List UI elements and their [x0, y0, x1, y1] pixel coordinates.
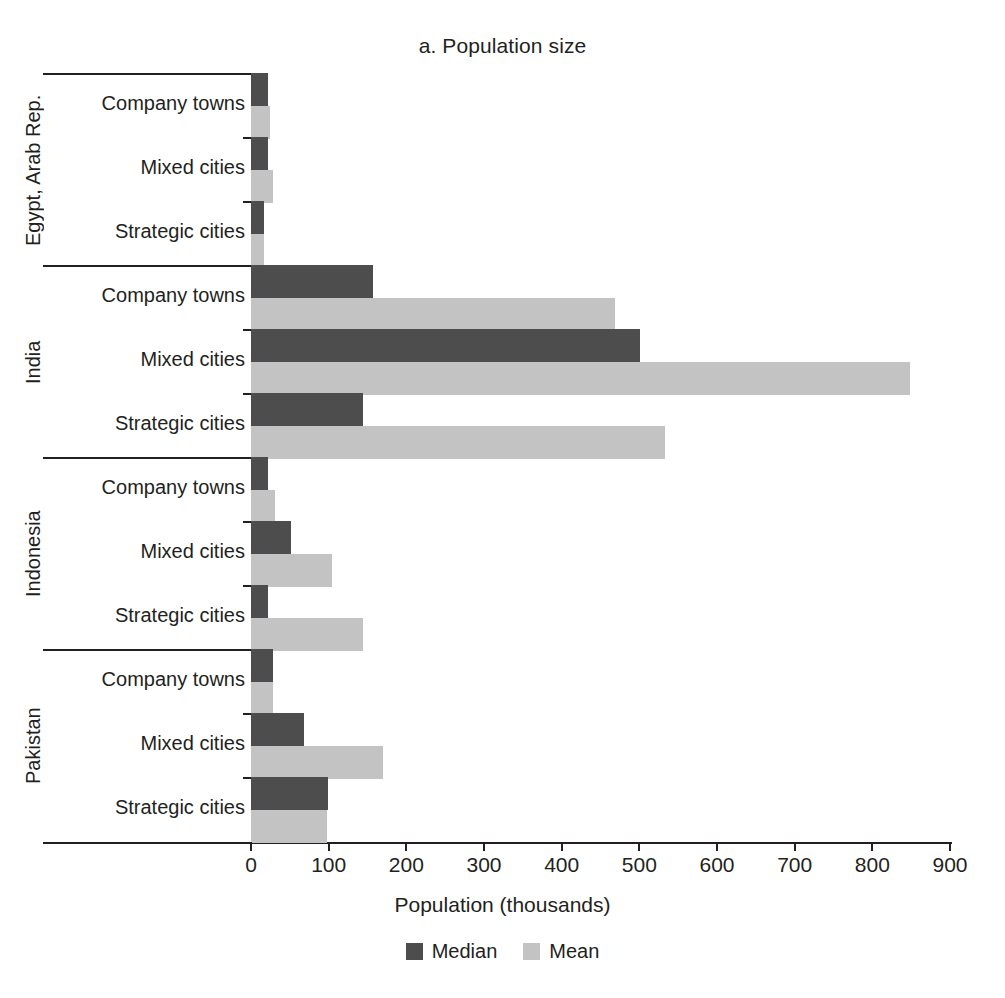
category-label: Strategic cities — [60, 220, 245, 243]
group-separator — [43, 265, 252, 267]
x-tick — [483, 842, 485, 851]
bar-mean — [251, 234, 264, 267]
x-axis-label: Population (thousands) — [0, 893, 1005, 917]
x-tick — [638, 842, 640, 851]
x-axis-line — [43, 842, 952, 844]
legend: Median Mean — [0, 940, 1005, 963]
bar-median — [251, 457, 268, 490]
x-tick-label: 900 — [910, 853, 990, 877]
bar-median — [251, 713, 304, 746]
legend-item-mean: Mean — [523, 940, 599, 963]
x-tick-label: 500 — [599, 853, 679, 877]
bar-mean — [251, 554, 332, 587]
category-label: Mixed cities — [60, 540, 245, 563]
x-tick — [794, 842, 796, 851]
bar-mean — [251, 682, 273, 715]
x-tick-label: 0 — [211, 853, 291, 877]
legend-swatch-median-icon — [406, 943, 423, 960]
bar-median — [251, 585, 268, 618]
bar-median — [251, 521, 291, 554]
group-separator — [43, 73, 252, 75]
country-label: Egypt, Arab Rep. — [22, 74, 45, 266]
chart-figure: a. Population size Egypt, Arab Rep.India… — [0, 0, 1005, 998]
x-tick — [871, 842, 873, 851]
bar-median — [251, 137, 268, 170]
legend-label-median: Median — [432, 940, 498, 963]
bar-median — [251, 777, 328, 810]
category-label: Company towns — [60, 92, 245, 115]
x-tick — [716, 842, 718, 851]
bar-mean — [251, 362, 910, 395]
x-tick — [949, 842, 951, 851]
category-label: Mixed cities — [60, 348, 245, 371]
category-label: Strategic cities — [60, 604, 245, 627]
x-tick — [561, 842, 563, 851]
category-label: Strategic cities — [60, 412, 245, 435]
bar-median — [251, 329, 640, 362]
bar-mean — [251, 426, 665, 459]
category-label: Mixed cities — [60, 156, 245, 179]
x-tick — [328, 842, 330, 851]
x-tick-label: 300 — [444, 853, 524, 877]
bar-median — [251, 201, 264, 234]
category-label: Strategic cities — [60, 796, 245, 819]
category-label: Company towns — [60, 476, 245, 499]
category-label: Mixed cities — [60, 732, 245, 755]
x-tick-label: 700 — [755, 853, 835, 877]
bar-mean — [251, 170, 273, 203]
bar-median — [251, 393, 363, 426]
bar-mean — [251, 618, 363, 651]
legend-item-median: Median — [406, 940, 498, 963]
bar-mean — [251, 746, 383, 779]
bar-median — [251, 73, 268, 106]
bar-mean — [251, 490, 275, 523]
x-tick-label: 200 — [366, 853, 446, 877]
category-label: Company towns — [60, 284, 245, 307]
bar-mean — [251, 810, 327, 843]
bar-median — [251, 265, 373, 298]
category-label: Company towns — [60, 668, 245, 691]
x-tick-label: 400 — [522, 853, 602, 877]
country-label: India — [22, 266, 45, 458]
bar-mean — [251, 298, 615, 331]
legend-swatch-mean-icon — [523, 943, 540, 960]
group-separator — [43, 457, 252, 459]
x-tick — [250, 842, 252, 851]
x-tick-label: 800 — [832, 853, 912, 877]
country-label: Pakistan — [22, 650, 45, 842]
bar-median — [251, 649, 273, 682]
country-label: Indonesia — [22, 458, 45, 650]
chart-title: a. Population size — [0, 34, 1005, 58]
bar-mean — [251, 106, 270, 139]
x-tick-label: 100 — [289, 853, 369, 877]
x-tick-label: 600 — [677, 853, 757, 877]
group-separator — [43, 649, 252, 651]
legend-label-mean: Mean — [549, 940, 599, 963]
x-tick — [405, 842, 407, 851]
